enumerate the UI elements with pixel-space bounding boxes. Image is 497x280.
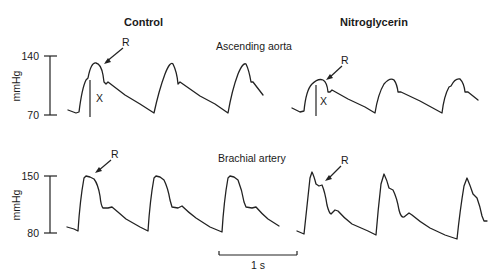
time-scale-bar (219, 251, 297, 255)
r-label-brachial-control: R (111, 148, 119, 160)
pressure-waveform-figure: Control Nitroglycerin Ascending aorta 14… (0, 0, 497, 280)
trace-brachial-control (67, 176, 279, 232)
site-label-ascending-aorta: Ascending aorta (216, 40, 292, 52)
r-arrow-icon (104, 48, 123, 64)
bottom-tick-80: 80 (27, 227, 39, 239)
r-label-brachial-nitro: R (341, 154, 349, 166)
x-label-nitro: X (320, 95, 327, 107)
top-tick-70: 70 (27, 109, 39, 121)
r-arrow-icon (95, 160, 111, 173)
r-label-aorta-nitro: R (341, 54, 349, 66)
site-label-brachial-artery: Brachial artery (218, 152, 286, 164)
r-arrow-icon (325, 166, 341, 181)
bottom-y-axis (44, 176, 57, 233)
bottom-ylabel-mmhg: mmHg (10, 189, 22, 220)
header-control: Control (124, 16, 163, 28)
r-label-aorta-control: R (122, 36, 130, 48)
top-y-axis (44, 56, 57, 115)
x-label-control: X (96, 92, 103, 104)
top-tick-140: 140 (21, 50, 39, 62)
top-ylabel-mmhg: mmHg (10, 70, 22, 101)
header-nitroglycerin: Nitroglycerin (340, 16, 408, 28)
r-arrow-icon (326, 66, 342, 80)
time-scale-label: 1 s (251, 259, 265, 271)
bottom-tick-150: 150 (21, 170, 39, 182)
trace-aorta-control (68, 63, 263, 113)
trace-brachial-nitro (297, 172, 487, 239)
